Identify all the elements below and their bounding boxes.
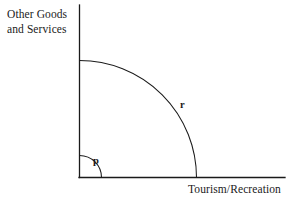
- inner-curve-label: p: [93, 155, 99, 166]
- x-axis-label: Tourism/Recreation: [188, 182, 281, 197]
- ppf-diagram-canvas: Other Goodsand Services Tourism/Recreati…: [0, 0, 298, 202]
- y-axis-label-line-1: Other Goods: [7, 8, 67, 20]
- outer-curve-label: r: [180, 99, 185, 110]
- y-axis-label-line-2: and Services: [7, 23, 67, 35]
- y-axis-label: Other Goodsand Services: [7, 7, 67, 36]
